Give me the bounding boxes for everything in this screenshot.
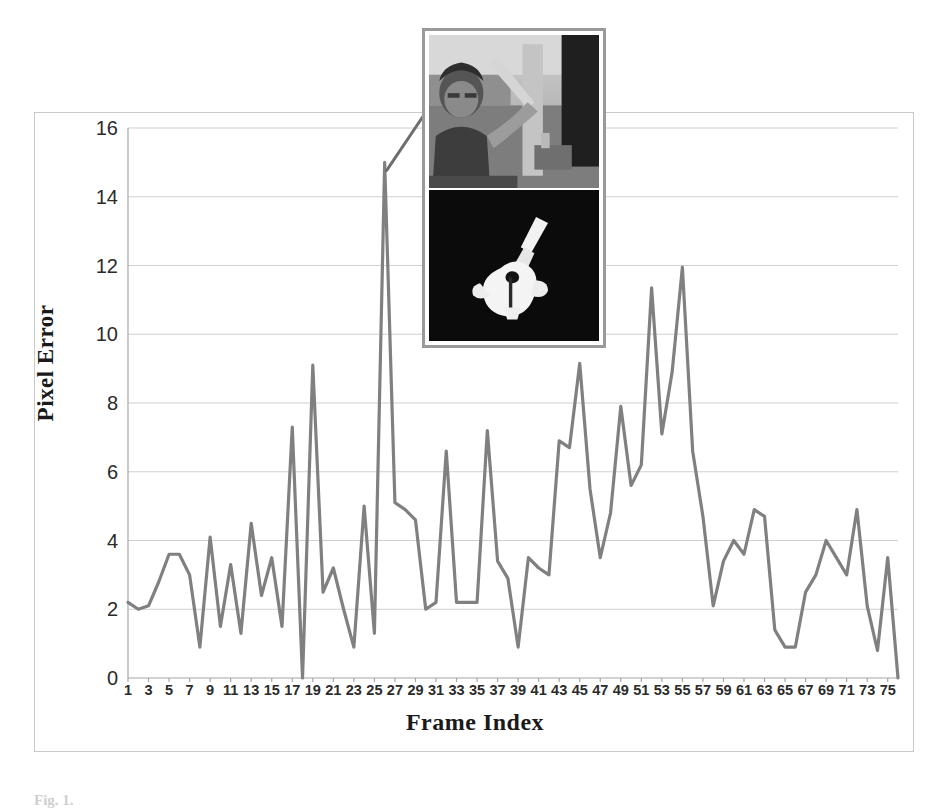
y-tick-label-10: 10 [96, 324, 118, 344]
y-tick-label-16: 16 [96, 118, 118, 138]
camera-frame-photo [429, 35, 599, 188]
y-tick-label-12: 12 [96, 256, 118, 276]
y-tick-label-6: 6 [107, 462, 118, 482]
y-tick-label-14: 14 [96, 187, 118, 207]
figure-container: 0246810121416 13579111315171921232527293… [0, 0, 950, 812]
y-tick-label-2: 2 [107, 599, 118, 619]
x-axis-title: Frame Index [0, 709, 950, 736]
y-axis-title: Pixel Error [33, 263, 59, 463]
caption-prefix: Fig. 1. [34, 792, 74, 808]
x-tick-label-75: 75 [873, 683, 903, 698]
figure-caption: Fig. 1. [34, 792, 914, 809]
y-tick-label-8: 8 [107, 393, 118, 413]
frame-sample-inset [422, 28, 606, 348]
inset-inner [429, 35, 599, 341]
segmentation-mask [429, 190, 599, 341]
y-tick-label-4: 4 [107, 531, 118, 551]
x-tick-labels: 1357911131517192123252729313335373941434… [0, 683, 950, 707]
